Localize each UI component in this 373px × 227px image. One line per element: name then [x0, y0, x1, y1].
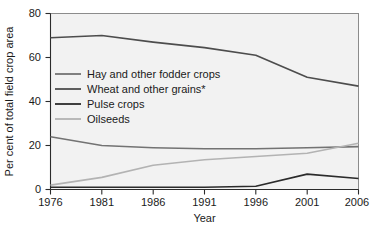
legend-label-hay: Hay and other fodder crops — [87, 68, 221, 80]
x-tick-label-1981: 1981 — [90, 196, 114, 208]
y-tick-marks — [46, 14, 51, 190]
x-tick-label-2001: 2001 — [295, 196, 319, 208]
x-axis-title: Year — [193, 212, 216, 224]
y-tick-label-40: 40 — [29, 95, 41, 107]
legend-label-oilseeds: Oilseeds — [87, 113, 130, 125]
y-tick-label-0: 0 — [35, 183, 41, 195]
x-tick-label-1976: 1976 — [38, 196, 62, 208]
legend-label-pulse: Pulse crops — [87, 98, 145, 110]
y-axis-title: Per cent of total field crop area — [3, 26, 15, 177]
y-tick-label-60: 60 — [29, 51, 41, 63]
x-tick-marks — [51, 190, 359, 195]
x-tick-label-1991: 1991 — [192, 196, 216, 208]
y-tick-label-20: 20 — [29, 139, 41, 151]
legend-label-wheat: Wheat and other grains* — [87, 83, 206, 95]
line-chart: 0 20 40 60 80 1976 1981 1986 1991 1996 2… — [0, 0, 373, 227]
x-tick-label-1996: 1996 — [244, 196, 268, 208]
x-tick-label-1986: 1986 — [141, 196, 165, 208]
y-tick-label-80: 80 — [29, 7, 41, 19]
chart-canvas: 0 20 40 60 80 1976 1981 1986 1991 1996 2… — [0, 0, 373, 227]
x-tick-label-2006: 2006 — [345, 196, 369, 208]
